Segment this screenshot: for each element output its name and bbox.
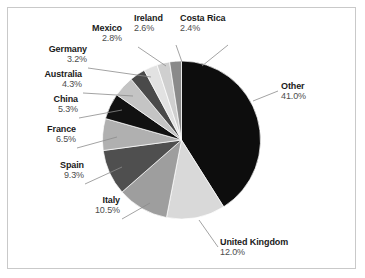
leader-line-costa-rica (202, 45, 228, 66)
slice-label-ireland: Ireland 2.6% (134, 14, 182, 33)
leader-line-united-kingdom (199, 220, 218, 247)
slice-label-ireland-pct: 2.6% (134, 24, 182, 34)
slice-label-other-pct: 41.0% (281, 92, 343, 102)
slice-label-china: China 5.3% (22, 95, 78, 114)
slice-label-germany-pct: 3.2% (25, 55, 87, 65)
pie-slices-group (102, 61, 260, 219)
leader-line-other (253, 91, 278, 101)
slice-label-united-kingdom: United Kingdom 12.0% (220, 238, 316, 257)
slice-label-mexico: Mexico 2.8% (63, 24, 122, 43)
leader-line-italy (122, 203, 150, 219)
slice-label-spain: Spain 9.3% (28, 161, 84, 180)
slice-label-mexico-pct: 2.8% (63, 34, 122, 44)
slice-label-costa-rica: Costa Rica 2.4% (180, 14, 246, 33)
slice-label-italy: Italy 10.5% (58, 196, 120, 215)
slice-label-france-pct: 6.5% (16, 135, 76, 145)
slice-label-china-pct: 5.3% (22, 105, 78, 115)
slice-label-italy-pct: 10.5% (58, 206, 120, 216)
slice-label-other: Other 41.0% (281, 82, 343, 101)
slice-label-spain-pct: 9.3% (28, 171, 84, 181)
slice-label-united-kingdom-pct: 12.0% (220, 248, 316, 258)
leader-line-ireland (176, 45, 182, 62)
slice-label-germany: Germany 3.2% (25, 45, 87, 64)
leader-line-mexico (138, 47, 166, 66)
slice-label-australia: Australia 4.3% (18, 70, 82, 89)
slice-label-costa-rica-pct: 2.4% (180, 24, 246, 34)
chart-page: Mexico 2.8% Ireland 2.6% Costa Rica 2.4%… (0, 0, 365, 278)
slice-label-australia-pct: 4.3% (18, 80, 82, 90)
slice-label-france: France 6.5% (16, 125, 76, 144)
